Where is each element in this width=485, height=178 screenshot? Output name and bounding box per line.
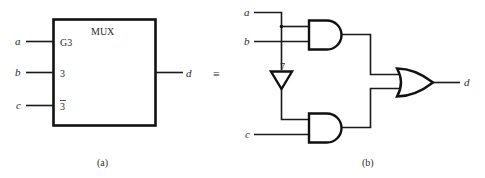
wire-and1-to-or [342,35,401,75]
caption-a: (a) [97,157,108,169]
pin-3-bar-label: 3 [60,101,65,112]
and-gate-1 [309,21,342,50]
input-b-label-b: b [244,35,250,47]
output-d-label: d [186,67,192,79]
input-c-label-b: c [245,128,250,140]
pin-3-label: 3 [60,68,65,79]
mux-equivalence-diagram: MUX a G3 b 3 c 3 d (a) ≡ a b c d 7 [0,0,485,178]
input-c-label: c [16,99,21,111]
input-a-label: a [15,35,21,47]
output-d-label-b: d [464,76,470,88]
input-b-label: b [15,66,21,78]
mux-title: MUX [91,26,115,37]
figure-a: MUX a G3 b 3 c 3 d (a) [15,20,192,170]
and-gate-2 [309,114,342,143]
figure-b: a b c d 7 (b) [244,6,470,169]
input-a-label-b: a [244,6,250,18]
or-gate [397,69,433,97]
equivalence-symbol: ≡ [213,67,220,81]
inverter-gate [271,72,292,90]
wire-and2-to-or [342,89,401,128]
wire-not-a [282,89,310,120]
pin-g3-label: G3 [60,37,72,48]
caption-b: (b) [362,157,374,169]
